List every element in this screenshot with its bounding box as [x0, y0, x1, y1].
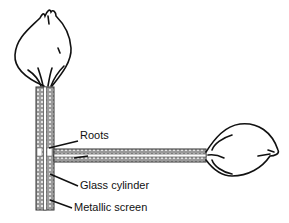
vertical-metallic-screen-tube — [36, 87, 54, 210]
horizontal-metallic-screen-tube — [54, 149, 206, 162]
label-roots: Roots — [80, 129, 109, 141]
lower-plant-bulb — [206, 124, 278, 176]
label-glass-cylinder: Glass cylinder — [80, 179, 149, 191]
label-metallic-screen: Metallic screen — [74, 201, 147, 213]
upper-plant-bulb — [15, 10, 71, 86]
plant-root-apparatus-diagram: Roots Glass cylinder Metallic screen — [0, 0, 289, 223]
